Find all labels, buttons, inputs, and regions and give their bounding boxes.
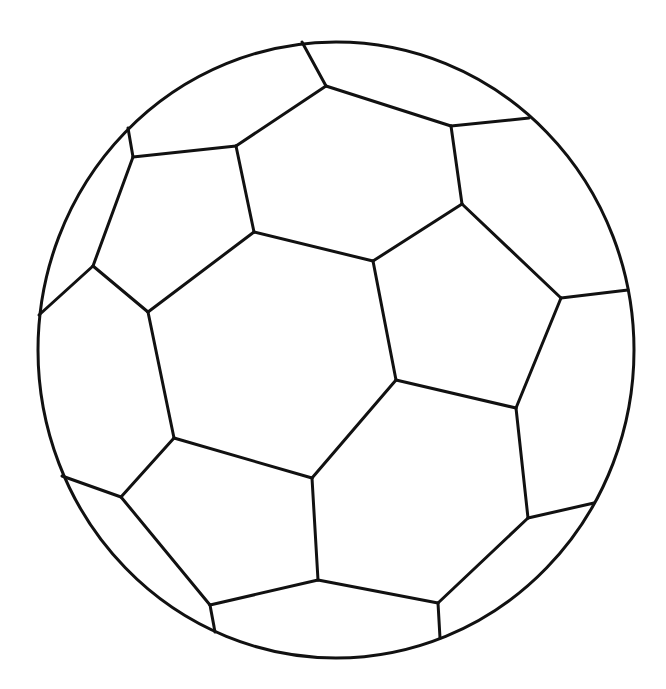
- ball-outline: [38, 42, 634, 658]
- soccer-ball-icon: [0, 0, 666, 689]
- ball-seams: [39, 42, 628, 638]
- soccer-ball-illustration: [0, 0, 666, 689]
